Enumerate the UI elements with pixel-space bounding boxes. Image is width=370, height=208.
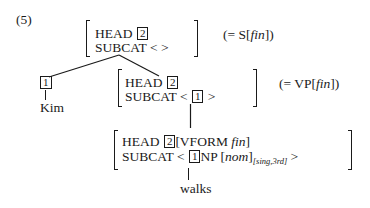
subject-node: 1 — [40, 76, 52, 90]
tag-box: 2 — [137, 27, 149, 40]
gloss-prefix: (= VP[ — [279, 76, 316, 91]
top-gloss: (= S[fin]) — [223, 28, 274, 42]
angle-open: < — [180, 89, 188, 104]
tag-box: 1 — [40, 76, 52, 89]
gloss-suffix: ]) — [330, 76, 339, 91]
case-value: nom — [225, 149, 248, 164]
agreement-subscript: [sing,3rd] — [253, 156, 287, 166]
angle-close: > — [208, 89, 216, 104]
vform-close: ] — [246, 134, 251, 149]
branch-to-subject — [49, 55, 119, 77]
top-avm-right-bracket — [194, 20, 198, 57]
vform-open: [VFORM — [175, 134, 231, 149]
example-number: (5) — [16, 13, 32, 27]
top-avm-left-bracket — [86, 20, 90, 57]
gloss-feature: fin — [316, 76, 330, 91]
subject-word: Kim — [40, 101, 64, 115]
vform-value: fin — [231, 134, 245, 149]
vp-avm-head-row: HEAD 2 — [125, 76, 179, 90]
tag-box: 1 — [189, 150, 201, 163]
top-avm-head-row: HEAD 2 — [95, 27, 149, 41]
vp-avm-right-bracket — [253, 69, 257, 107]
lexical-avm-subcat-row: SUBCAT < 1NP [nom][sing,3rd] > — [122, 150, 298, 166]
top-avm-subcat-row: SUBCAT < > — [95, 41, 169, 55]
subcat-category: NP — [200, 149, 217, 164]
subcat-label: SUBCAT — [125, 89, 177, 104]
head-label: HEAD — [122, 134, 160, 149]
lexical-avm-right-bracket — [348, 130, 352, 170]
subcat-label: SUBCAT — [95, 40, 147, 55]
lexical-word: walks — [180, 182, 212, 196]
angle-open: < — [177, 149, 185, 164]
gloss-prefix: (= S[ — [223, 27, 251, 42]
subcat-value: < > — [150, 40, 169, 55]
vp-avm-left-bracket — [118, 69, 122, 107]
angle-close: > — [291, 149, 299, 164]
head-label: HEAD — [95, 26, 133, 41]
tag-box: 1 — [192, 90, 204, 103]
lexical-avm-left-bracket — [114, 130, 118, 170]
gloss-feature: fin — [251, 27, 265, 42]
tag-box: 2 — [167, 76, 179, 89]
subcat-label: SUBCAT — [122, 149, 174, 164]
vp-avm-subcat-row: SUBCAT < 1 > — [125, 90, 215, 104]
tag-box: 2 — [164, 135, 176, 148]
head-label: HEAD — [125, 75, 163, 90]
branch-to-vp — [119, 55, 159, 76]
gloss-suffix: ]) — [265, 27, 274, 42]
lexical-avm-head-row: HEAD 2[VFORM fin] — [122, 135, 250, 149]
vp-gloss: (= VP[fin]) — [279, 77, 339, 91]
